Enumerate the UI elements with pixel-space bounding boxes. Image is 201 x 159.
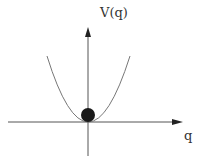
x-axis-label: q — [184, 128, 192, 143]
potential-diagram: V(q) q — [0, 0, 201, 159]
x-axis-arrow-icon — [172, 119, 183, 125]
y-axis-label: V(q) — [99, 5, 128, 20]
ball — [81, 108, 95, 122]
y-axis-arrow-icon — [85, 27, 91, 37]
y-axis — [85, 27, 91, 156]
